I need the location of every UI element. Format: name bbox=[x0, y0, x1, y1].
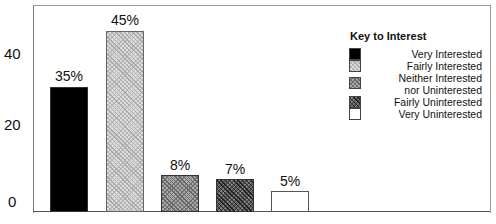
legend-title: Key to Interest bbox=[350, 30, 426, 42]
legend-label-fairly-interested: Fairly Interested bbox=[407, 60, 482, 72]
legend-swatch-neither bbox=[349, 77, 361, 89]
legend-label-very-interested: Very Interested bbox=[411, 48, 482, 60]
bar-very-uninterested bbox=[271, 191, 309, 212]
bar-label-neither: 8% bbox=[150, 157, 210, 173]
legend-swatch-fairly-uninterested bbox=[349, 96, 361, 108]
y-tick-0: 0 bbox=[8, 193, 32, 210]
bar-label-fairly-uninterested: 7% bbox=[205, 161, 265, 177]
y-tick-20: 20 bbox=[4, 116, 28, 133]
legend-swatch-very-uninterested bbox=[349, 108, 361, 120]
bar-label-very-uninterested: 5% bbox=[260, 173, 320, 189]
legend-label-neither-line1: Neither Interested bbox=[399, 72, 482, 84]
bar-neither bbox=[161, 175, 199, 212]
bar-very-interested bbox=[50, 87, 88, 212]
bar-fairly-interested bbox=[106, 31, 144, 212]
bar-label-fairly-interested: 45% bbox=[95, 12, 155, 28]
legend-swatch-fairly-interested bbox=[349, 60, 361, 72]
legend-label-very-uninterested: Very Uninterested bbox=[399, 108, 482, 120]
y-tick-40: 40 bbox=[4, 45, 28, 62]
x-axis-line bbox=[33, 211, 490, 212]
bar-label-very-interested: 35% bbox=[39, 68, 99, 84]
legend-label-fairly-uninterested: Fairly Uninterested bbox=[394, 96, 482, 108]
legend-swatch-very-interested bbox=[349, 48, 361, 60]
legend-label-neither-line2: nor Uninterested bbox=[404, 84, 482, 96]
bar-fairly-uninterested bbox=[216, 179, 254, 212]
